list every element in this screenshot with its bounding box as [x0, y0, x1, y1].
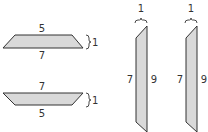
diagram-canvas: 5 7 1 7 5 1 1 7 9 1 7 9 [0, 0, 208, 132]
trapezoid-bottom-shape [3, 93, 83, 105]
parallelogram-right-width-label: 1 [188, 3, 194, 14]
trapezoid-bottom: 7 5 1 [3, 81, 98, 119]
parallelogram-left-width-label: 1 [138, 3, 144, 14]
trapezoid-bottom-bottom-label: 5 [39, 108, 45, 119]
parallelogram-left-shape [136, 26, 147, 132]
trapezoid-bottom-height-label: 1 [92, 95, 98, 106]
parallelogram-right-shape [186, 26, 197, 132]
parallelogram-right: 1 7 9 [177, 3, 207, 132]
trapezoid-top-shape [3, 35, 83, 48]
height-brace-icon [86, 93, 91, 107]
trapezoid-top-height-label: 1 [92, 37, 98, 48]
parallelogram-left: 1 7 9 [127, 3, 157, 132]
trapezoid-top: 5 7 1 [3, 23, 98, 61]
width-brace-icon [185, 18, 197, 23]
parallelogram-left-right-label: 9 [151, 74, 157, 85]
trapezoid-bottom-top-label: 7 [39, 81, 45, 92]
parallelogram-left-left-label: 7 [127, 74, 133, 85]
trapezoid-top-top-label: 5 [39, 23, 45, 34]
parallelogram-right-left-label: 7 [177, 74, 183, 85]
trapezoid-top-bottom-label: 7 [39, 50, 45, 61]
parallelogram-right-right-label: 9 [201, 74, 207, 85]
height-brace-icon [86, 35, 91, 49]
width-brace-icon [135, 18, 147, 23]
